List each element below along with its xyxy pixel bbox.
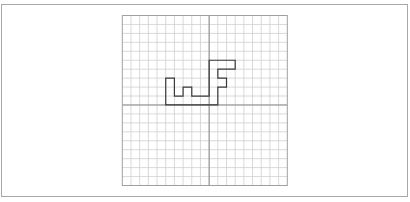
axes [122, 16, 287, 186]
coordinate-grid [0, 0, 410, 202]
grid-border [122, 16, 287, 186]
grid-lines [122, 16, 287, 186]
